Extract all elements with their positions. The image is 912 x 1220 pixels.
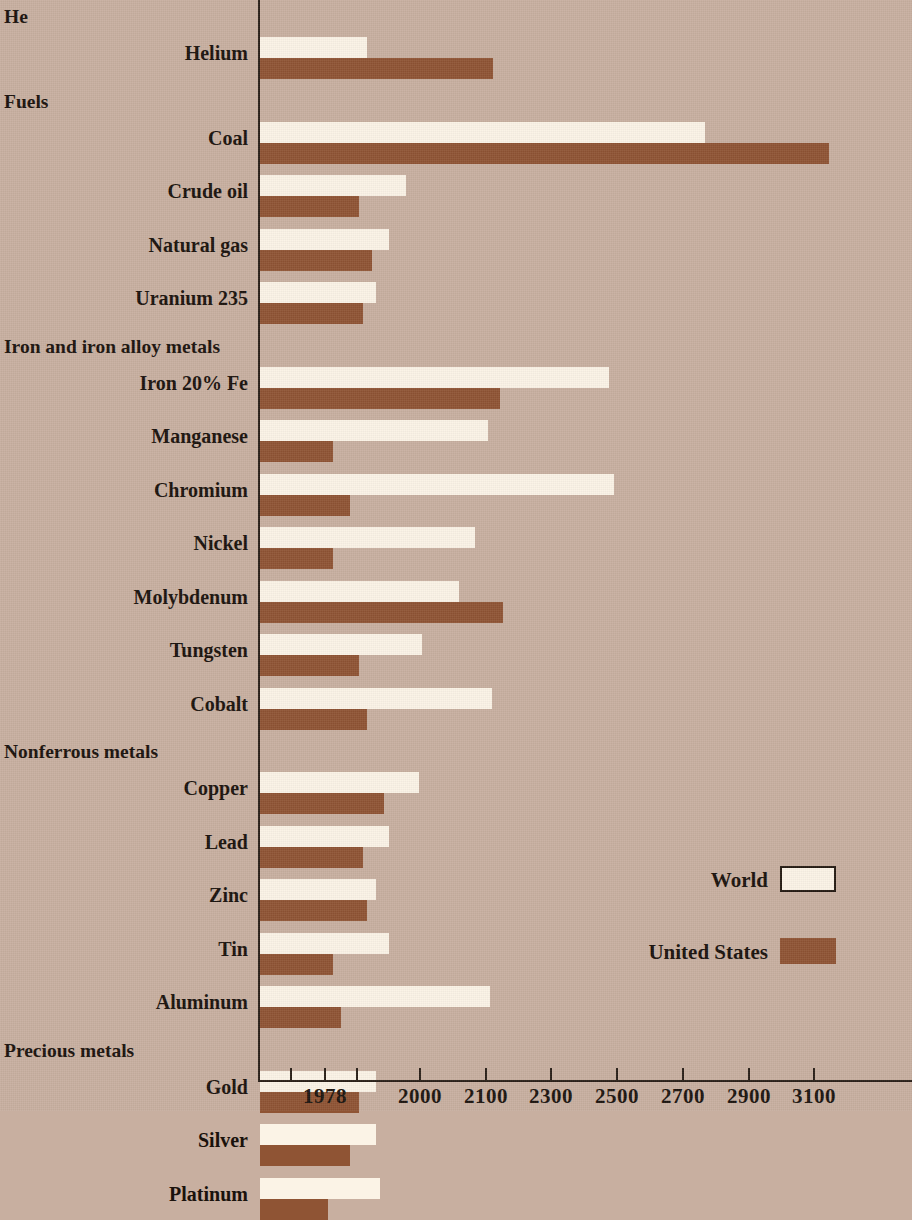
x-axis-tick-minor-0: [290, 1068, 292, 1081]
bar-us-zinc: [260, 900, 367, 921]
bar-world-tungsten: [260, 634, 422, 655]
category-label-platinum: Platinum: [169, 1183, 248, 1206]
x-axis-tick-3100: [813, 1068, 815, 1081]
x-axis-tick-1978: [324, 1068, 326, 1081]
bar-world-manganese: [260, 420, 488, 441]
x-axis-tick-2300: [550, 1068, 552, 1081]
category-label-uranium-235: Uranium 235: [135, 287, 248, 310]
bar-us-manganese: [260, 441, 333, 462]
x-axis-tick-label-3100: 3100: [792, 1084, 836, 1109]
bar-world-uranium-235: [260, 282, 376, 303]
bar-us-uranium-235: [260, 303, 363, 324]
bar-world-silver: [260, 1124, 376, 1145]
bar-world-cobalt: [260, 688, 492, 709]
bar-us-molybdenum: [260, 602, 503, 623]
bar-world-chromium: [260, 474, 614, 495]
bar-world-zinc: [260, 879, 376, 900]
bar-us-coal: [260, 143, 829, 164]
bar-us-tungsten: [260, 655, 359, 676]
category-label-coal: Coal: [208, 127, 248, 150]
bar-us-nickel: [260, 548, 333, 569]
category-label-aluminum: Aluminum: [156, 991, 248, 1014]
bar-world-platinum: [260, 1178, 380, 1199]
x-axis-tick-2900: [748, 1068, 750, 1081]
x-axis-tick-2700: [682, 1068, 684, 1081]
bar-world-tin: [260, 933, 389, 954]
category-label-lead: Lead: [205, 831, 248, 854]
x-axis-tick-label-2100: 2100: [464, 1084, 508, 1109]
category-label-nickel: Nickel: [194, 532, 248, 555]
category-label-chromium: Chromium: [154, 479, 248, 502]
legend-swatch-united-states: [780, 938, 836, 964]
x-axis-tick-label-2300: 2300: [529, 1084, 573, 1109]
group-heading-nonferrous-metals: Nonferrous metals: [4, 741, 158, 763]
bar-world-molybdenum: [260, 581, 459, 602]
category-label-gold: Gold: [206, 1076, 248, 1099]
legend-label-world: World: [711, 868, 768, 893]
bar-us-aluminum: [260, 1007, 341, 1028]
bar-us-tin: [260, 954, 333, 975]
x-axis-tick-label-2700: 2700: [661, 1084, 705, 1109]
legend-label-united-states: United States: [648, 940, 768, 965]
bar-us-natural-gas: [260, 250, 372, 271]
bar-world-natural-gas: [260, 229, 389, 250]
category-label-tin: Tin: [218, 938, 248, 961]
category-label-natural-gas: Natural gas: [149, 234, 248, 257]
group-heading-he: He: [4, 6, 28, 28]
x-axis-tick-label-2000: 2000: [398, 1084, 442, 1109]
category-label-crude-oil: Crude oil: [167, 180, 248, 203]
category-label-tungsten: Tungsten: [170, 639, 248, 662]
category-label-copper: Copper: [184, 777, 248, 800]
x-axis-tick-2500: [616, 1068, 618, 1081]
bar-us-crude-oil: [260, 196, 359, 217]
bar-world-helium: [260, 37, 367, 58]
x-axis-tick-2100: [485, 1068, 487, 1081]
y-axis-line: [258, 0, 260, 1081]
category-label-cobalt: Cobalt: [190, 693, 248, 716]
bar-world-lead: [260, 826, 389, 847]
bar-us-silver: [260, 1145, 350, 1166]
x-axis-tick-2000: [419, 1068, 421, 1081]
legend-swatch-world: [780, 866, 836, 892]
category-label-silver: Silver: [198, 1129, 248, 1152]
bar-world-coal: [260, 122, 705, 143]
category-label-molybdenum: Molybdenum: [134, 586, 248, 609]
bar-world-copper: [260, 772, 419, 793]
bar-us-chromium: [260, 495, 350, 516]
bar-world-iron-20-fe: [260, 367, 609, 388]
x-axis-tick-minor-1: [356, 1068, 358, 1081]
bar-us-cobalt: [260, 709, 367, 730]
category-label-helium: Helium: [185, 42, 248, 65]
bar-us-lead: [260, 847, 363, 868]
bar-us-iron-20-fe: [260, 388, 500, 409]
x-axis-tick-label-2500: 2500: [595, 1084, 639, 1109]
category-label-iron-20-fe: Iron 20% Fe: [139, 372, 248, 395]
bar-world-crude-oil: [260, 175, 406, 196]
bar-us-helium: [260, 58, 493, 79]
category-label-zinc: Zinc: [209, 884, 248, 907]
x-axis-tick-label-1978: 1978: [303, 1084, 347, 1109]
bar-world-nickel: [260, 527, 475, 548]
x-axis-tick-label-2900: 2900: [727, 1084, 771, 1109]
bar-world-aluminum: [260, 986, 490, 1007]
group-heading-precious-metals: Precious metals: [4, 1040, 134, 1062]
group-heading-iron-and-iron-alloy-metals: Iron and iron alloy metals: [4, 336, 220, 358]
category-label-manganese: Manganese: [151, 425, 248, 448]
bar-us-platinum: [260, 1199, 328, 1220]
group-heading-fuels: Fuels: [4, 91, 48, 113]
bar-us-copper: [260, 793, 384, 814]
